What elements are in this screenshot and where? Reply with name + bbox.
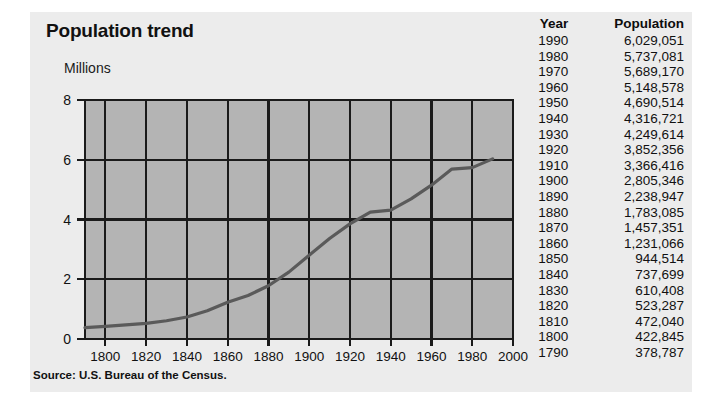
cell-population: 472,040 xyxy=(578,314,688,330)
cell-year: 1940 xyxy=(508,111,578,127)
xtick-label-1900: 1900 xyxy=(294,349,324,364)
cell-year: 1930 xyxy=(508,127,578,143)
table-row: 19304,249,614 xyxy=(508,127,688,143)
cell-year: 1840 xyxy=(508,267,578,283)
cell-population: 5,148,578 xyxy=(578,80,688,96)
cell-population: 944,514 xyxy=(578,251,688,267)
cell-year: 1980 xyxy=(508,49,578,65)
table-row: 1840737,699 xyxy=(508,267,688,283)
cell-year: 1990 xyxy=(508,33,578,49)
table-row: 1800422,845 xyxy=(508,329,688,345)
cell-year: 1810 xyxy=(508,314,578,330)
cell-population: 3,852,356 xyxy=(578,142,688,158)
cell-population: 6,029,051 xyxy=(578,33,688,49)
cell-population: 1,231,066 xyxy=(578,236,688,252)
cell-population: 2,805,346 xyxy=(578,173,688,189)
cell-population: 4,249,614 xyxy=(578,127,688,143)
population-table: Year Population 19906,029,05119805,737,0… xyxy=(508,16,688,360)
cell-year: 1970 xyxy=(508,64,578,80)
source-note: Source: U.S. Bureau of the Census. xyxy=(33,369,227,381)
cell-year: 1920 xyxy=(508,142,578,158)
cell-year: 1910 xyxy=(508,158,578,174)
cell-year: 1870 xyxy=(508,220,578,236)
cell-population: 378,787 xyxy=(578,345,688,361)
table-row: 18601,231,066 xyxy=(508,236,688,252)
cell-population: 5,737,081 xyxy=(578,49,688,65)
table-row: 19805,737,081 xyxy=(508,49,688,65)
xtick-label-1920: 1920 xyxy=(335,349,365,364)
xtick-label-1840: 1840 xyxy=(172,349,202,364)
xtick-label-1860: 1860 xyxy=(213,349,243,364)
cell-year: 1830 xyxy=(508,283,578,299)
table-row: 1830610,408 xyxy=(508,283,688,299)
table-row: 1850944,514 xyxy=(508,251,688,267)
population-trend-figure: Population trend Millions 18001820184018… xyxy=(0,0,720,405)
table-row: 19705,689,170 xyxy=(508,64,688,80)
cell-year: 1960 xyxy=(508,80,578,96)
cell-population: 2,238,947 xyxy=(578,189,688,205)
table-row: 1810472,040 xyxy=(508,314,688,330)
ytick-label-6: 6 xyxy=(63,152,71,168)
table-row: 19404,316,721 xyxy=(508,111,688,127)
cell-population: 1,457,351 xyxy=(578,220,688,236)
cell-population: 1,783,085 xyxy=(578,205,688,221)
cell-year: 1900 xyxy=(508,173,578,189)
table-row: 19002,805,346 xyxy=(508,173,688,189)
column-header-year: Year xyxy=(508,16,578,33)
cell-population: 737,699 xyxy=(578,267,688,283)
table-row: 1790378,787 xyxy=(508,345,688,361)
cell-population: 610,408 xyxy=(578,283,688,299)
table-row: 19906,029,051 xyxy=(508,33,688,49)
xtick-label-1820: 1820 xyxy=(131,349,161,364)
xtick-label-1960: 1960 xyxy=(416,349,446,364)
ytick-label-2: 2 xyxy=(63,271,71,287)
cell-year: 1890 xyxy=(508,189,578,205)
cell-year: 1790 xyxy=(508,345,578,361)
xtick-label-1880: 1880 xyxy=(253,349,283,364)
cell-population: 4,316,721 xyxy=(578,111,688,127)
table-row: 19203,852,356 xyxy=(508,142,688,158)
cell-year: 1950 xyxy=(508,95,578,111)
table-row: 18902,238,947 xyxy=(508,189,688,205)
table-header-row: Year Population xyxy=(508,16,688,33)
table-row: 18801,783,085 xyxy=(508,205,688,221)
cell-population: 4,690,514 xyxy=(578,95,688,111)
table-row: 19504,690,514 xyxy=(508,95,688,111)
xtick-label-1940: 1940 xyxy=(376,349,406,364)
cell-population: 422,845 xyxy=(578,329,688,345)
column-header-population: Population xyxy=(578,16,688,33)
cell-year: 1850 xyxy=(508,251,578,267)
cell-year: 1800 xyxy=(508,329,578,345)
ytick-label-4: 4 xyxy=(63,212,71,228)
cell-population: 5,689,170 xyxy=(578,64,688,80)
cell-year: 1880 xyxy=(508,205,578,221)
cell-year: 1860 xyxy=(508,236,578,252)
table-row: 19605,148,578 xyxy=(508,80,688,96)
ytick-label-0: 0 xyxy=(63,331,71,347)
figure-panel: Population trend Millions 18001820184018… xyxy=(30,12,692,392)
table-row: 1820523,287 xyxy=(508,298,688,314)
cell-year: 1820 xyxy=(508,298,578,314)
xtick-label-1800: 1800 xyxy=(90,349,120,364)
table-row: 19103,366,416 xyxy=(508,158,688,174)
xtick-label-1980: 1980 xyxy=(457,349,487,364)
cell-population: 3,366,416 xyxy=(578,158,688,174)
cell-population: 523,287 xyxy=(578,298,688,314)
ytick-label-8: 8 xyxy=(63,92,71,108)
table-row: 18701,457,351 xyxy=(508,220,688,236)
